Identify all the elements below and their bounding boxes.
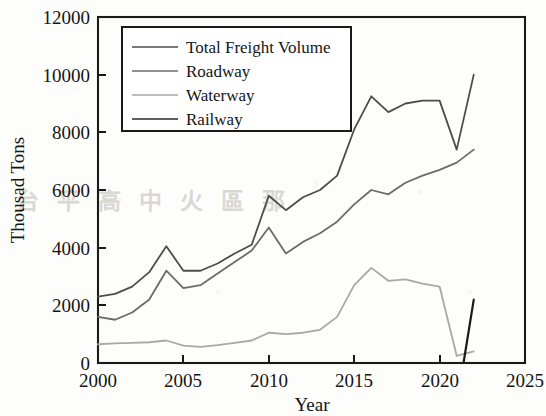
legend-label-roadway: Roadway — [186, 62, 251, 81]
y-axis-ticks — [98, 17, 106, 363]
y-tick-label-8000: 8000 — [52, 122, 90, 143]
legend-label-railway: Railway — [186, 110, 243, 129]
x-tick-label-2010: 2010 — [250, 370, 288, 391]
y-tick-label-4000: 4000 — [52, 238, 90, 259]
series-line-roadway — [98, 150, 474, 320]
y-tick-label-6000: 6000 — [52, 180, 90, 201]
y-axis-title: Thousad Tons — [7, 137, 28, 244]
y-tick-label-2000: 2000 — [52, 295, 90, 316]
chart-figure: 台 平 高 中 火 區 那 0 2000 4000 — [0, 0, 546, 416]
y-tick-labels: 0 2000 4000 6000 8000 10000 12000 — [43, 7, 91, 374]
series-line-waterway — [98, 268, 474, 356]
y-tick-label-12000: 12000 — [43, 7, 91, 28]
x-axis-title: Year — [294, 394, 330, 415]
y-tick-label-10000: 10000 — [43, 65, 91, 86]
x-axis-ticks — [98, 355, 525, 363]
legend: Total Freight Volume Roadway Waterway Ra… — [122, 27, 351, 131]
x-tick-labels: 2000 2005 2010 2015 2020 2025 — [79, 370, 544, 391]
x-tick-label-2005: 2005 — [164, 370, 202, 391]
legend-label-waterway: Waterway — [186, 86, 255, 105]
legend-label-total-freight-volume: Total Freight Volume — [186, 38, 331, 57]
x-tick-label-2020: 2020 — [421, 370, 459, 391]
x-tick-label-2015: 2015 — [335, 370, 373, 391]
x-tick-label-2025: 2025 — [506, 370, 544, 391]
x-tick-label-2000: 2000 — [79, 370, 117, 391]
line-chart: 0 2000 4000 6000 8000 10000 12000 2000 2… — [0, 0, 546, 416]
